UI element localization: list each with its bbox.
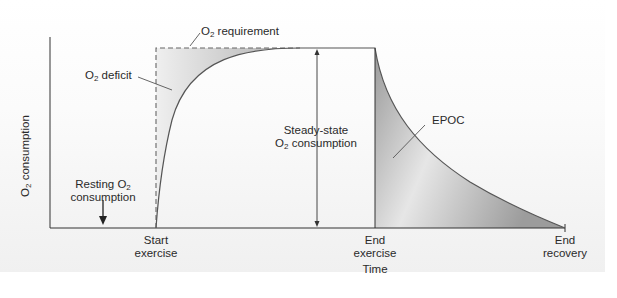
arrow-down-head [315, 221, 320, 227]
epoc-label: EPOC [432, 114, 465, 127]
x-tick-start-exercise: Start exercise [126, 234, 186, 260]
arrow-up-head [315, 49, 320, 55]
o2-requirement-label: O2 requirement [201, 25, 279, 38]
o2-requirement-leader [190, 33, 200, 46]
y-axis-label: O2 consumption [19, 91, 31, 221]
x-axis-label: Time [355, 263, 395, 276]
epoc-area [375, 48, 565, 228]
x-tick-end-exercise: End exercise [345, 234, 405, 260]
o2-deficit-label: O2 deficit [85, 69, 132, 82]
x-tick-end-recovery: End recovery [535, 234, 595, 260]
resting-consumption-label: Resting O2 consumption [66, 178, 140, 204]
steady-state-label: Steady-state O2 consumption [268, 124, 364, 150]
resting-arrow-head [99, 216, 107, 225]
